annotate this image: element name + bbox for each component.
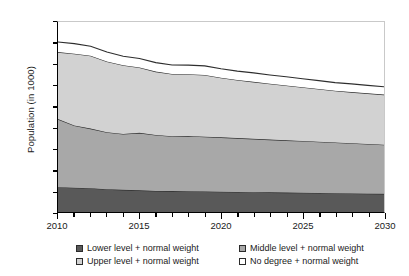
legend-label: Middle level + normal weight: [250, 243, 364, 253]
x-axis-tick-label: 2015: [109, 221, 169, 231]
x-axis-tick-mark: [221, 213, 222, 219]
x-axis-tick-mark: [352, 213, 353, 217]
x-axis-tick-label: 2025: [273, 221, 333, 231]
x-axis-tick-mark: [139, 213, 140, 219]
legend-item: No degree + normal weight: [239, 256, 402, 266]
legend-swatch: [76, 245, 83, 252]
x-axis-tick-mark: [254, 213, 255, 217]
legend-item: Upper level + normal weight: [76, 256, 239, 266]
legend-item: Middle level + normal weight: [239, 243, 402, 253]
x-axis-tick-mark: [319, 213, 320, 217]
x-axis-tick-mark: [73, 213, 74, 217]
legend-label: No degree + normal weight: [250, 256, 358, 266]
x-axis-tick-label: 2010: [27, 221, 87, 231]
legend-label: Upper level + normal weight: [87, 256, 199, 266]
legend-label: Lower level + normal weight: [87, 243, 199, 253]
stacked-area-chart: Population (in 1000) 0200400600800100012…: [0, 0, 409, 276]
legend-swatch: [76, 258, 83, 265]
x-axis-tick-mark: [237, 213, 238, 217]
x-axis-tick-mark: [123, 213, 124, 217]
x-axis-tick-mark: [287, 213, 288, 217]
x-axis-tick-mark: [90, 213, 91, 217]
x-axis-tick-mark: [303, 213, 304, 219]
x-axis-tick-mark: [336, 213, 337, 217]
x-axis-tick-mark: [188, 213, 189, 217]
x-axis-tick-mark: [205, 213, 206, 217]
x-axis-tick-mark: [369, 213, 370, 217]
area-series-group: [58, 22, 384, 212]
x-axis-tick-mark: [57, 213, 58, 219]
x-axis-tick-label: 2020: [191, 221, 251, 231]
x-axis-tick-mark: [155, 213, 156, 217]
legend-swatch: [239, 258, 246, 265]
plot-area: [57, 21, 385, 213]
x-axis-tick-mark: [172, 213, 173, 217]
y-axis-title: Population (in 1000): [25, 20, 36, 200]
x-axis-tick-mark: [385, 213, 386, 219]
legend-swatch: [239, 245, 246, 252]
x-axis-tick-label: 2030: [355, 221, 409, 231]
legend: Lower level + normal weightMiddle level …: [76, 243, 396, 266]
legend-item: Lower level + normal weight: [76, 243, 239, 253]
area-band: [58, 52, 384, 145]
x-axis-tick-mark: [106, 213, 107, 217]
x-axis-tick-mark: [270, 213, 271, 217]
